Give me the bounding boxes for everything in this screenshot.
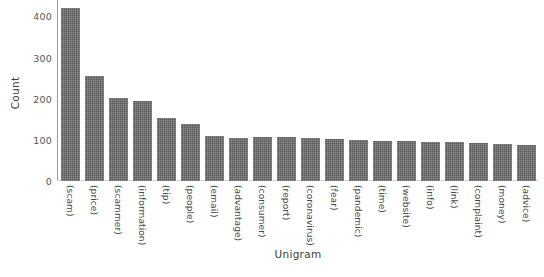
y-axis-tick-0: 0 (46, 176, 52, 187)
x-axis-tick-labels: (scam)(price)(scammer)(information)(tip)… (58, 183, 538, 245)
bar (253, 137, 272, 181)
x-axis-tick-label-text: (information) (137, 185, 147, 245)
x-axis-tick-label-text: (email) (209, 185, 219, 218)
x-axis-tick-label-text: (website) (401, 185, 411, 228)
x-axis-tick-label-text: (tip) (161, 185, 171, 204)
x-axis-tick-label-text: (fear) (329, 185, 339, 211)
y-axis-tick-100: 100 (33, 134, 52, 145)
plot-area (58, 0, 538, 181)
y-axis-tick-labels: 0100200300400 (26, 0, 56, 186)
bar (229, 138, 248, 181)
x-axis-tick-label-text: (money) (497, 185, 507, 224)
x-axis-baseline (57, 180, 538, 181)
x-axis-tick-label: (link) (445, 183, 464, 245)
x-axis-tick-label-text: (link) (449, 185, 459, 209)
bar (205, 136, 224, 181)
x-axis-tick-label-text: (price) (89, 185, 99, 215)
x-axis-tick-label: (complaint) (469, 183, 488, 245)
x-axis-tick-label: (money) (493, 183, 512, 245)
x-axis-tick-label: (advice) (517, 183, 536, 245)
x-axis-tick-label-text: (coronavirus) (305, 185, 315, 246)
x-axis-tick-label: (report) (277, 183, 296, 245)
bar (277, 137, 296, 181)
bar (133, 101, 152, 181)
bar (421, 142, 440, 181)
x-axis-tick-label: (tip) (157, 183, 176, 245)
x-axis-tick-label-text: (pandemic) (353, 185, 363, 237)
y-axis-tick-200: 200 (33, 93, 52, 104)
bar (157, 118, 176, 181)
x-axis-tick-label: (time) (373, 183, 392, 245)
bar (301, 138, 320, 181)
y-axis-line (57, 0, 58, 181)
bar (61, 8, 80, 181)
x-axis-tick-label-text: (info) (425, 185, 435, 210)
x-axis-tick-label-text: (consumer) (257, 185, 267, 238)
x-axis-tick-label: (price) (85, 183, 104, 245)
x-axis-tick-label: (pandemic) (349, 183, 368, 245)
x-axis-tick-label: (info) (421, 183, 440, 245)
x-axis-tick-label: (coronavirus) (301, 183, 320, 245)
bar (325, 139, 344, 181)
x-axis-tick-label-text: (time) (377, 185, 387, 213)
bar (373, 141, 392, 181)
bar (85, 76, 104, 181)
bar (181, 124, 200, 181)
x-axis-tick-label: (advantage) (229, 183, 248, 245)
bar (349, 140, 368, 181)
bar (397, 141, 416, 181)
x-axis-tick-label: (scam) (61, 183, 80, 245)
x-axis-tick-label: (email) (205, 183, 224, 245)
x-axis-tick-label: (information) (133, 183, 152, 245)
unigram-frequency-bar-chart: Count 0100200300400 (scam)(price)(scamme… (0, 0, 544, 277)
x-axis-tick-label-text: (complaint) (473, 185, 483, 238)
bar (445, 142, 464, 181)
x-axis-tick-label-text: (advantage) (233, 185, 243, 241)
x-axis-title: Unigram (58, 248, 538, 260)
x-axis-tick-label-text: (report) (281, 185, 291, 220)
bar (469, 143, 488, 181)
y-axis-title: Count (6, 0, 24, 186)
x-axis-tick-label: (fear) (325, 183, 344, 245)
x-axis-tick-label-text: (scam) (65, 185, 75, 217)
bar (517, 145, 536, 181)
y-axis-tick-300: 300 (33, 52, 52, 63)
y-axis-title-text: Count (9, 77, 21, 110)
x-axis-tick-label: (website) (397, 183, 416, 245)
x-axis-tick-label-text: (scammer) (113, 185, 123, 235)
x-axis-tick-label-text: (people) (185, 185, 195, 223)
x-axis-tick-label: (consumer) (253, 183, 272, 245)
x-axis-tick-label-text: (advice) (521, 185, 531, 222)
bar (493, 144, 512, 181)
x-axis-tick-label: (people) (181, 183, 200, 245)
x-axis-tick-label: (scammer) (109, 183, 128, 245)
bar (109, 98, 128, 181)
y-axis-tick-400: 400 (33, 11, 52, 22)
